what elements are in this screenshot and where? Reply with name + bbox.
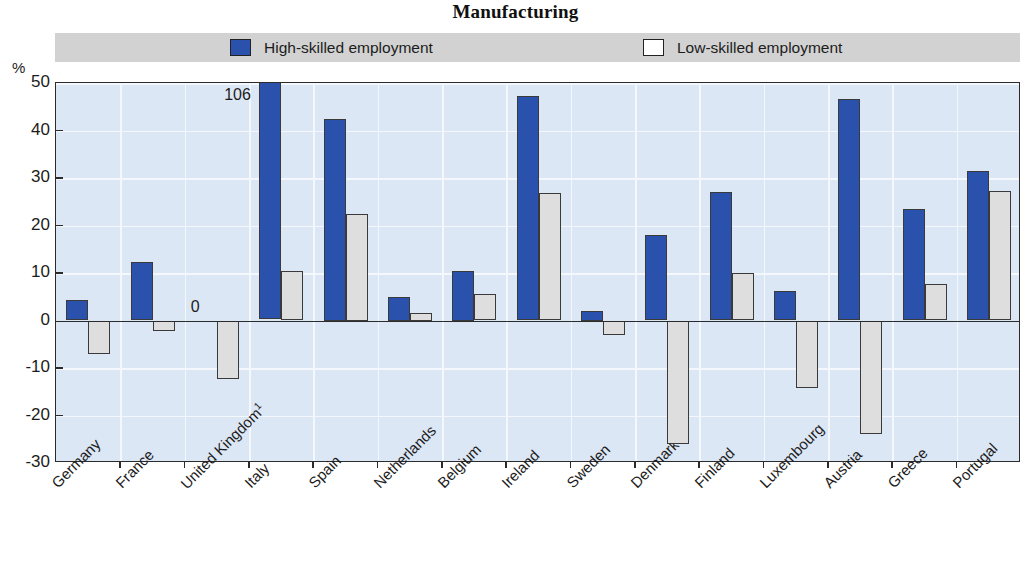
bar: [474, 294, 496, 321]
y-axis-tick-label: 10: [2, 262, 50, 282]
y-axis-tick-label: -30: [2, 452, 50, 472]
gridline-vertical: [635, 83, 637, 461]
bar: [989, 191, 1011, 320]
y-axis-tick-label: 40: [2, 120, 50, 140]
bar: [967, 171, 989, 320]
bar: [774, 291, 796, 320]
x-axis-tick-mark: [570, 461, 572, 468]
bar: [388, 297, 410, 321]
legend-item-high-skilled: High-skilled employment: [230, 37, 433, 58]
bar: [860, 321, 882, 434]
y-axis-tick-label: -10: [2, 357, 50, 377]
x-axis-tick-mark: [891, 461, 893, 468]
x-axis-tick-mark: [827, 461, 829, 468]
bar: [452, 271, 474, 321]
bar: [539, 193, 561, 320]
y-axis-tick-mark: [55, 130, 63, 132]
bar: [66, 300, 88, 320]
legend-label-high-skilled: High-skilled employment: [264, 39, 433, 57]
zero-axis-line: [56, 321, 1019, 323]
x-axis-tick-mark: [248, 461, 250, 468]
bar: [667, 321, 689, 445]
gridline-vertical: [957, 83, 959, 461]
gridline-vertical: [892, 83, 894, 461]
bar: [346, 214, 368, 321]
gridline-vertical: [699, 83, 701, 461]
x-axis-tick-mark: [763, 461, 765, 468]
chart-legend: High-skilled employment Low-skilled empl…: [55, 33, 1020, 62]
value-annotation: 0: [191, 298, 200, 316]
x-axis-tick-mark: [119, 461, 121, 468]
value-annotation: 106: [224, 86, 251, 104]
y-axis-tick-label: -20: [2, 405, 50, 425]
bar: [710, 192, 732, 321]
legend-item-low-skilled: Low-skilled employment: [643, 37, 842, 58]
gridline-vertical: [442, 83, 444, 461]
gridline-horizontal: [56, 83, 1019, 85]
legend-swatch-high-skilled: [230, 39, 251, 56]
gridline-vertical: [313, 83, 315, 461]
bar: [645, 235, 667, 321]
y-axis-tick-label: 30: [2, 167, 50, 187]
legend-swatch-low-skilled: [643, 39, 664, 56]
bar: [903, 209, 925, 320]
y-axis-tick-label: 0: [2, 310, 50, 330]
x-axis-tick-mark: [634, 461, 636, 468]
y-axis-tick-mark: [55, 225, 63, 227]
x-axis-tick-mark: [698, 461, 700, 468]
bar: [153, 321, 175, 332]
y-axis-tick-label: 50: [2, 72, 50, 92]
y-axis-tick-mark: [55, 415, 63, 417]
bar: [410, 313, 432, 320]
gridline-vertical: [120, 83, 122, 461]
y-axis-tick-labels: 50403020100-10-20-30: [0, 82, 50, 462]
x-axis-tick-mark: [505, 461, 507, 468]
bar: [838, 99, 860, 321]
gridline-vertical: [828, 83, 830, 461]
y-axis-tick-mark: [55, 367, 63, 369]
bar: [324, 119, 346, 321]
page-title: Manufacturing: [0, 1, 1031, 23]
y-axis-tick-label: 20: [2, 215, 50, 235]
bar: [517, 96, 539, 321]
gridline-vertical: [506, 83, 508, 461]
bar: [131, 262, 153, 320]
bar: [581, 311, 603, 321]
plot-area: [55, 82, 1020, 462]
bar: [732, 273, 754, 321]
y-axis-tick-mark: [55, 177, 63, 179]
legend-label-low-skilled: Low-skilled employment: [677, 39, 842, 57]
y-axis-tick-mark: [55, 272, 63, 274]
bar: [88, 321, 110, 354]
bar: [603, 321, 625, 336]
gridline-vertical: [378, 83, 380, 461]
x-axis-tick-mark: [441, 461, 443, 468]
x-axis-tick-mark: [377, 461, 379, 468]
x-axis-tick-mark: [956, 461, 958, 468]
bar: [925, 284, 947, 321]
bar: [796, 321, 818, 388]
bar: [281, 271, 303, 320]
x-axis-tick-mark: [312, 461, 314, 468]
bar: [217, 321, 239, 379]
gridline-vertical: [571, 83, 573, 461]
gridline-vertical: [764, 83, 766, 461]
x-axis-category-label: Italy: [241, 460, 272, 491]
x-axis-tick-mark: [184, 461, 186, 468]
bar: [259, 82, 281, 319]
gridline-vertical: [185, 83, 187, 461]
